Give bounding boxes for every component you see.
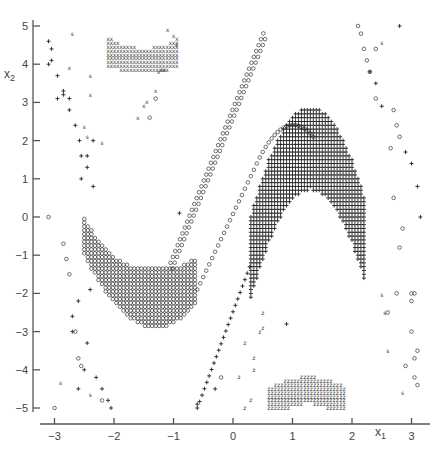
svg-text:s: s (100, 139, 104, 146)
y-axis-label: x2 (4, 67, 15, 83)
svg-text:x: x (154, 87, 158, 94)
svg-text:s: s (88, 91, 92, 98)
svg-text:0: 0 (230, 430, 236, 442)
svg-text:s: s (401, 389, 405, 396)
svg-text:x: x (136, 114, 140, 121)
svg-text:−1: −1 (15, 249, 28, 261)
svg-text:3: 3 (22, 96, 28, 108)
svg-text:z: z (342, 385, 346, 392)
svg-text:4: 4 (22, 58, 28, 70)
svg-text:−1: −1 (167, 430, 180, 442)
svg-text:x: x (166, 26, 170, 33)
svg-text:s: s (59, 379, 63, 386)
svg-text:−4: −4 (15, 364, 28, 376)
svg-text:s: s (380, 291, 384, 298)
svg-text:s: s (88, 72, 92, 79)
svg-text:z: z (261, 324, 265, 331)
svg-text:x: x (163, 66, 167, 73)
data-points: xxxxxxxxxxxxxxxxxxxxxxxxxxxxxxxxxxxxxxxx… (47, 24, 423, 411)
svg-text:z: z (252, 354, 256, 361)
svg-text:x: x (175, 41, 179, 48)
svg-text:2: 2 (349, 430, 355, 442)
svg-text:z: z (243, 339, 247, 346)
svg-text:s: s (88, 391, 92, 398)
axes (33, 20, 430, 424)
svg-text:−2: −2 (15, 287, 28, 299)
svg-text:z: z (261, 309, 265, 316)
svg-text:s: s (380, 39, 384, 46)
svg-text:z: z (237, 373, 241, 380)
svg-text:0: 0 (22, 211, 28, 223)
svg-text:z: z (249, 396, 253, 403)
svg-text:3: 3 (408, 430, 414, 442)
svg-text:s: s (386, 347, 390, 354)
svg-text:−2: −2 (108, 430, 121, 442)
svg-text:2: 2 (22, 135, 28, 147)
svg-text:x: x (68, 64, 72, 71)
svg-text:x: x (172, 32, 176, 39)
svg-text:s: s (71, 30, 75, 37)
svg-text:1: 1 (22, 173, 28, 185)
svg-text:1: 1 (289, 430, 295, 442)
svg-text:−3: −3 (15, 326, 28, 338)
svg-text:x: x (142, 102, 146, 109)
svg-text:s: s (383, 309, 387, 316)
svg-text:s: s (82, 123, 86, 130)
svg-text:z: z (243, 404, 247, 411)
svg-text:s: s (85, 133, 89, 140)
svg-text:−3: −3 (48, 430, 61, 442)
scatter-plot: 543210−1−2−3−4−5−3−2−10123 xxxxxxxxxxxxx… (0, 0, 444, 455)
x-axis-label: x1 (375, 425, 386, 441)
svg-text:−5: −5 (15, 402, 28, 414)
svg-text:z: z (252, 366, 256, 373)
svg-text:5: 5 (22, 20, 28, 32)
